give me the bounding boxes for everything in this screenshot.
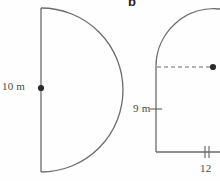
label-rect-height: 9 m	[133, 103, 150, 114]
figure-canvas	[0, 0, 220, 181]
part-label-b: b	[128, 0, 136, 8]
arch-center-dot	[210, 64, 216, 70]
right-capped-rectangle-group	[150, 9, 220, 158]
label-semicircle-diameter: 10 m	[2, 81, 25, 92]
geometry-figure: 10 m 9 m 12 b	[0, 0, 220, 181]
label-rect-width: 12	[200, 163, 211, 174]
semicircle-center-dot	[38, 85, 44, 91]
left-semicircle-group	[38, 8, 123, 172]
arch-top-arc	[156, 9, 220, 67]
semicircle-arc	[41, 8, 123, 172]
